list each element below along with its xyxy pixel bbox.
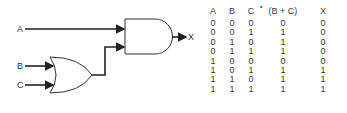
header-x: X xyxy=(313,6,333,16)
table-cell: 1 xyxy=(273,84,293,94)
table-cell: 1 xyxy=(203,84,223,94)
output-x-label: X xyxy=(188,32,194,42)
table-row: 01010 xyxy=(203,37,343,46)
table-row: 01110 xyxy=(203,46,343,55)
header-a: A xyxy=(203,6,223,16)
table-row: 00000 xyxy=(203,18,343,27)
table-row: 11011 xyxy=(203,74,343,83)
table-header: A B C • (B + C) X xyxy=(203,6,343,15)
table-row: 10111 xyxy=(203,65,343,74)
input-b-label: B xyxy=(17,61,23,71)
table-row: 10000 xyxy=(203,56,343,65)
table-cell: 1 xyxy=(241,84,261,94)
table-cell: 1 xyxy=(222,84,242,94)
or-to-and-wire xyxy=(92,47,124,75)
header-b: B xyxy=(222,6,242,16)
header-c: C xyxy=(241,6,261,16)
header-b-or-c: (B + C) xyxy=(263,6,303,16)
input-a-label: A xyxy=(17,24,23,34)
logic-circuit xyxy=(0,0,200,113)
input-c-label: C xyxy=(17,80,24,90)
table-cell: 1 xyxy=(313,84,333,94)
table-row: 00110 xyxy=(203,27,343,36)
table-row: 11111 xyxy=(203,84,343,93)
and-gate xyxy=(125,19,173,54)
or-gate xyxy=(50,57,92,93)
